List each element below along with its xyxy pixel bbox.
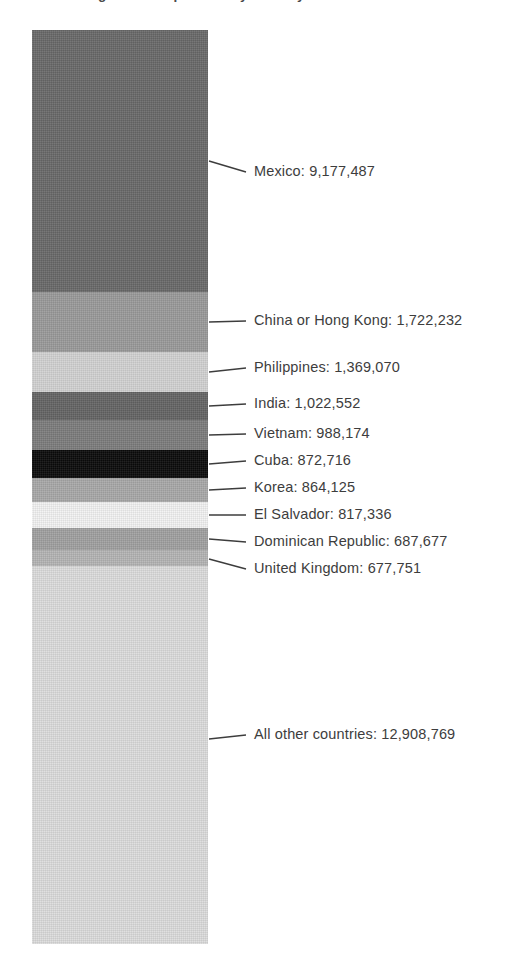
segment-label-korea: Korea: 864,125 [254, 480, 355, 495]
bar-segment [32, 566, 208, 944]
bar-segment [32, 30, 208, 292]
leader-line [209, 321, 246, 322]
leader-line [209, 735, 246, 739]
leader-line [209, 368, 246, 372]
bar-segment [32, 502, 208, 528]
leader-line [209, 559, 246, 569]
bar-segment [32, 392, 208, 420]
bar-segment [32, 528, 208, 550]
bar-segment [32, 550, 208, 566]
leader-line [209, 539, 246, 542]
bar-segment [32, 420, 208, 450]
leader-line [209, 488, 246, 490]
segment-label-dominican-republic: Dominican Republic: 687,677 [254, 534, 447, 549]
bar-segment [32, 292, 208, 352]
bar-segment [32, 478, 208, 502]
segment-label-all-other-countries: All other countries: 12,908,769 [254, 727, 455, 742]
chart-title: U.S. Foreign-Born Population by Country … [33, 0, 493, 3]
leader-line [209, 404, 246, 406]
segment-label-mexico: Mexico: 9,177,487 [254, 164, 375, 179]
leader-line [209, 461, 246, 464]
segment-label-india: India: 1,022,552 [254, 396, 360, 411]
bar-segment [32, 352, 208, 392]
segment-label-united-kingdom: United Kingdom: 677,751 [254, 561, 421, 576]
bar-segment [32, 450, 208, 478]
segment-label-el-salvador: El Salvador: 817,336 [254, 507, 392, 522]
leader-line [209, 161, 246, 172]
segment-label-china-or-hong-kong: China or Hong Kong: 1,722,232 [254, 313, 462, 328]
leader-line [209, 434, 246, 435]
segment-label-cuba: Cuba: 872,716 [254, 453, 351, 468]
stacked-bar-chart [32, 30, 208, 944]
segment-label-vietnam: Vietnam: 988,174 [254, 426, 370, 441]
segment-label-philippines: Philippines: 1,369,070 [254, 360, 400, 375]
